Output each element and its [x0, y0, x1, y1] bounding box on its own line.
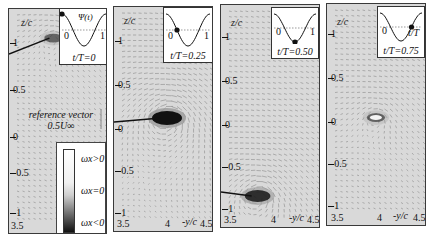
inset-tick-0: 0 [382, 25, 387, 36]
psi-label: Ψ(t) [78, 12, 93, 22]
y-tick: 0 [225, 119, 230, 130]
colorbar [63, 149, 75, 233]
x-tick: 4 [165, 218, 170, 229]
y-tick: 1 [13, 37, 18, 48]
y-tick: -1 [118, 207, 126, 218]
inset-tick-1: 1 [204, 30, 209, 41]
ref-line2: 0.5U∞ [19, 120, 103, 131]
inset-tick-1: 1 [100, 30, 105, 41]
panel-t075: z/c 1 0.5 0 -0.5 -1 3.5 4 -y/c 4.5 0 t/T… [326, 3, 426, 226]
y-tick: 0.5 [225, 75, 238, 86]
y-axis-label: z/c [21, 17, 32, 28]
y-axis-label: z/c [231, 17, 242, 28]
x-tick: 3.5 [224, 214, 237, 225]
x-tick: 4.5 [307, 214, 320, 225]
phase-inset: 0 1 t/T=0.50 [271, 7, 319, 59]
phase-label: t/T=0.50 [272, 46, 318, 57]
phase-label: t/T=0 [60, 52, 107, 63]
inset-tick-1: t/T [408, 27, 419, 38]
phase-label: t/T=0.75 [378, 45, 424, 56]
y-axis-label: z/c [337, 16, 348, 27]
inset-tick-0: 0 [168, 30, 173, 41]
y-tick: 1 [331, 28, 336, 39]
panel-t050: z/c 1 0.5 0 -0.5 -1 3.5 4 -y/c 4.5 0 1 t… [220, 4, 320, 228]
x-tick: 4 [377, 212, 382, 223]
phase-inset: Ψ(t) 0 1 t/T=0 [59, 8, 107, 65]
x-tick: 4 [271, 214, 276, 225]
y-tick: -0.5 [118, 165, 134, 176]
y-tick: 1 [118, 35, 123, 46]
legend-zero: ωx=0 [81, 185, 104, 196]
legend-positive: ωx>0 [81, 153, 104, 164]
y-axis-label: z/c [124, 15, 135, 26]
y-tick: -1 [13, 207, 21, 218]
reference-vector-label: reference vector 0.5U∞ [19, 109, 103, 131]
x-axis-label: -y/c [393, 210, 408, 221]
inset-tick-0: 0 [64, 30, 69, 41]
y-tick: 0 [118, 123, 123, 134]
y-tick: 0.5 [13, 84, 26, 95]
x-tick: 4.5 [200, 218, 213, 229]
vorticity-legend: ωx>0 ωx=0 ωx<0 [56, 142, 106, 234]
x-tick: 3.5 [117, 218, 130, 229]
y-tick: -1 [331, 200, 339, 211]
y-tick: 0.5 [118, 79, 131, 90]
y-tick: -0.5 [331, 158, 347, 169]
inset-tick-0: 0 [276, 26, 281, 37]
y-tick: -0.5 [13, 167, 29, 178]
phase-inset: 0 1 t/T=0.25 [163, 7, 213, 63]
y-tick: -0.5 [225, 161, 241, 172]
x-tick: 3.5 [331, 212, 344, 223]
phase-inset: 0 t/T t/T=0.75 [377, 6, 425, 58]
x-tick: 3.5 [11, 220, 24, 231]
x-tick: 4.5 [413, 212, 426, 223]
phase-label: t/T=0.25 [164, 50, 212, 61]
x-axis-label: -y/c [289, 212, 304, 223]
waveform-icon [164, 8, 212, 48]
panel-t0: z/c 1 0.5 0 -0.5 -1 3.5 4 -y/c 4.5 Ψ(t) … [8, 8, 107, 234]
ref-line1: reference vector [19, 109, 103, 120]
y-tick: 0 [13, 131, 18, 142]
x-axis-label: -y/c [182, 216, 197, 227]
panel-t025: z/c 1 0.5 0 -0.5 -1 3.5 4 -y/c 4.5 0 1 t… [113, 6, 213, 232]
y-tick: 1 [225, 31, 230, 42]
legend-negative: ωx<0 [81, 217, 104, 228]
y-tick: 0.5 [331, 72, 344, 83]
y-tick: -1 [225, 203, 233, 214]
y-tick: 0 [331, 116, 336, 127]
inset-tick-1: 1 [310, 26, 315, 37]
